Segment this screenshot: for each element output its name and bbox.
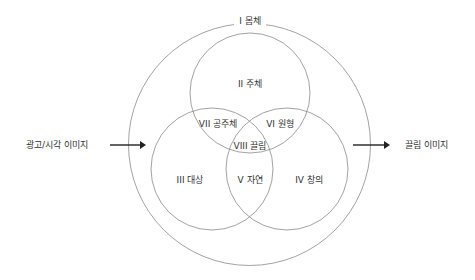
label-output-attraction-image: 끌림 이미지: [405, 139, 448, 150]
label-attraction: VIII 끌림: [234, 140, 267, 151]
label-subject: II 주체: [238, 79, 262, 89]
label-body: I 몸체: [239, 16, 261, 26]
label-common-subject: VII 공주체: [199, 119, 237, 129]
output-arrow-icon: [384, 141, 390, 149]
label-nature: V 자연: [237, 175, 262, 185]
circle-subject: [190, 33, 310, 153]
label-archetype: VI 원형: [266, 119, 294, 129]
label-input-advertising-image: 광고/시각 이미지: [26, 139, 88, 150]
label-object: III 대상: [177, 175, 204, 185]
venn-diagram: I 몸체 II 주체 VII 공주체 VI 원형 VIII 끌림 III 대상 …: [0, 0, 475, 280]
input-arrow-icon: [140, 141, 146, 149]
label-creativity: IV 창의: [295, 175, 323, 185]
